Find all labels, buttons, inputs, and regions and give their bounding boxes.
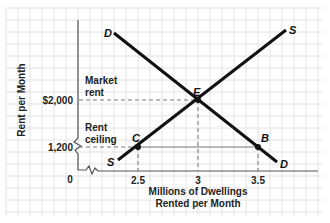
x-tick-3-5: 3.5 <box>251 175 265 186</box>
x-axis-label-line2: Rented per Month <box>156 198 241 209</box>
x-tick-3: 3 <box>195 175 201 186</box>
label-e: E <box>193 86 201 98</box>
x-axis-label-line1: Millions of Dwellings <box>149 186 248 197</box>
annotation-market-line2: rent <box>85 87 105 98</box>
label-d-bottom: D <box>280 158 288 170</box>
label-s-top: S <box>289 24 297 36</box>
x-tick-0: 0 <box>67 174 73 185</box>
y-tick-2000: $2,000 <box>42 95 73 106</box>
y-axis-label: Rent per Month <box>16 63 27 136</box>
label-s-bottom: S <box>107 156 115 168</box>
label-d-top: D <box>104 27 112 39</box>
label-c: C <box>132 132 141 144</box>
label-b: B <box>261 132 269 144</box>
y-tick-1200: 1,200 <box>48 142 73 153</box>
annotation-ceiling-line1: Rent <box>85 122 108 133</box>
point-b <box>255 144 261 150</box>
annotation-ceiling-line2: ceiling <box>85 134 117 145</box>
point-c <box>135 144 141 150</box>
x-tick-2-5: 2.5 <box>131 175 145 186</box>
annotation-market-line1: Market <box>85 75 118 86</box>
rent-ceiling-chart: D D S S E C B Market rent Rent ceiling $… <box>0 0 330 223</box>
